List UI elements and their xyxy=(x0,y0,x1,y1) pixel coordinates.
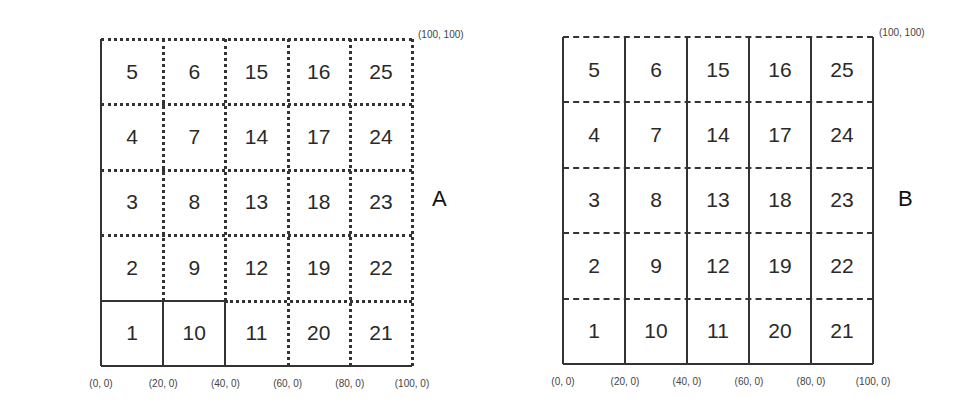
grid-line-horizontal xyxy=(101,234,412,237)
x-axis-coord-label: (20, 0) xyxy=(133,378,193,389)
grid-cell: 5 xyxy=(563,37,625,102)
grid-cell: 21 xyxy=(350,301,412,366)
grid-line-vertical xyxy=(624,37,626,364)
grid-line-vertical xyxy=(349,39,352,366)
grid-line-vertical xyxy=(162,39,165,301)
grid-line-horizontal xyxy=(101,103,412,106)
grid-cell: 6 xyxy=(163,39,225,104)
grid-cell: 18 xyxy=(288,170,350,235)
grid-cell: 2 xyxy=(101,235,163,300)
top-right-coord-label: (100, 100) xyxy=(418,29,464,40)
grid-cell: 9 xyxy=(163,235,225,300)
grid-cell: 11 xyxy=(225,301,287,366)
grid-cell: 13 xyxy=(687,168,749,233)
grid-cell: 7 xyxy=(625,102,687,167)
grid-line-horizontal xyxy=(101,38,412,41)
grid-cell: 20 xyxy=(749,299,811,364)
x-axis-coord-label: (100, 0) xyxy=(382,378,442,389)
grid-line-horizontal xyxy=(563,101,873,103)
grid-cell: 3 xyxy=(101,170,163,235)
grid-line-horizontal xyxy=(563,36,873,38)
grid-line-vertical xyxy=(100,39,102,366)
grid-cell: 1 xyxy=(101,301,163,366)
grid-line-horizontal xyxy=(563,363,873,365)
grid-cell: 7 xyxy=(163,104,225,169)
grid-cell: 1 xyxy=(563,299,625,364)
grid-cell: 3 xyxy=(563,168,625,233)
panel-label: A xyxy=(432,186,447,212)
grid-cell: 12 xyxy=(687,233,749,298)
grid-cell: 16 xyxy=(749,37,811,102)
x-axis-coord-label: (60, 0) xyxy=(719,376,779,387)
grid-cell: 14 xyxy=(225,104,287,169)
grid-cell: 5 xyxy=(101,39,163,104)
x-axis-coord-label: (20, 0) xyxy=(595,376,655,387)
grid-line-vertical xyxy=(562,37,564,364)
grid-line-vertical xyxy=(287,39,290,366)
grid-cell: 8 xyxy=(625,168,687,233)
panel-label: B xyxy=(898,186,913,212)
x-axis-coord-label: (40, 0) xyxy=(195,378,255,389)
grid-line-vertical xyxy=(686,37,688,364)
grid-cell: 13 xyxy=(225,170,287,235)
grid-cell: 17 xyxy=(288,104,350,169)
grid-cell: 15 xyxy=(225,39,287,104)
grid-line-vertical xyxy=(162,301,164,366)
grid-cell: 12 xyxy=(225,235,287,300)
grid-cell: 4 xyxy=(101,104,163,169)
grid-cell: 4 xyxy=(563,102,625,167)
grid-line-horizontal xyxy=(101,169,412,172)
grid-cell: 11 xyxy=(687,299,749,364)
grid-line-horizontal xyxy=(225,300,412,303)
grid-cell: 17 xyxy=(749,102,811,167)
grid-cell: 24 xyxy=(350,104,412,169)
grid-cell: 18 xyxy=(749,168,811,233)
grid-cell: 19 xyxy=(749,233,811,298)
grid-cell: 16 xyxy=(288,39,350,104)
top-right-coord-label: (100, 100) xyxy=(879,27,925,38)
x-axis-coord-label: (100, 0) xyxy=(843,376,903,387)
grid-line-vertical xyxy=(411,39,414,366)
grid-cell: 10 xyxy=(625,299,687,364)
x-axis-coord-label: (80, 0) xyxy=(320,378,380,389)
grid-line-horizontal xyxy=(563,167,873,169)
grid-line-horizontal xyxy=(563,298,873,300)
grid-cell: 23 xyxy=(811,168,873,233)
grid-line-vertical xyxy=(224,39,227,301)
grid-cell: 23 xyxy=(350,170,412,235)
grid-line-horizontal xyxy=(101,365,412,367)
grid-cell: 15 xyxy=(687,37,749,102)
grid-line-vertical xyxy=(224,301,226,366)
x-axis-coord-label: (40, 0) xyxy=(657,376,717,387)
grid-cell: 14 xyxy=(687,102,749,167)
grid-cell: 9 xyxy=(625,233,687,298)
grid-cell: 24 xyxy=(811,102,873,167)
grid-line-vertical xyxy=(810,37,812,364)
grid-cell: 21 xyxy=(811,299,873,364)
grid-cell: 6 xyxy=(625,37,687,102)
grid-cell: 22 xyxy=(350,235,412,300)
grid-cell: 25 xyxy=(811,37,873,102)
grid-cell: 22 xyxy=(811,233,873,298)
grid-cell: 8 xyxy=(163,170,225,235)
x-axis-coord-label: (60, 0) xyxy=(258,378,318,389)
grid-line-vertical xyxy=(872,37,874,364)
x-axis-coord-label: (80, 0) xyxy=(781,376,841,387)
x-axis-coord-label: (0, 0) xyxy=(71,378,131,389)
grid-cell: 10 xyxy=(163,301,225,366)
grid-cell: 19 xyxy=(288,235,350,300)
grid-cell: 25 xyxy=(350,39,412,104)
x-axis-coord-label: (0, 0) xyxy=(533,376,593,387)
grid-line-horizontal xyxy=(563,232,873,234)
grid-cell: 2 xyxy=(563,233,625,298)
grid-cell: 20 xyxy=(288,301,350,366)
grid-line-vertical xyxy=(748,37,750,364)
